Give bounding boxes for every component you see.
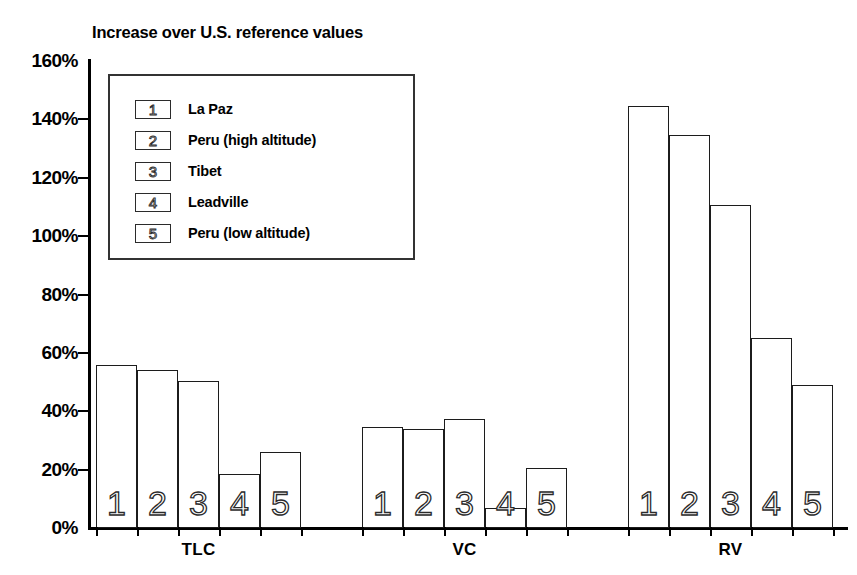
legend-item[interactable]: 4Leadville xyxy=(110,185,413,219)
x-axis-tick-mark xyxy=(526,527,528,536)
y-axis-line xyxy=(88,59,91,530)
bar[interactable] xyxy=(792,385,833,528)
y-axis-labels: 160%140%120%100%80%60%40%20%0% xyxy=(0,0,78,575)
x-axis-tick-mark xyxy=(751,527,753,536)
x-axis-tick-mark xyxy=(792,527,794,536)
x-axis-tick-mark xyxy=(137,527,139,536)
legend-key-swatch: 4 xyxy=(135,193,171,212)
x-axis-tick-mark xyxy=(403,527,405,536)
legend-item[interactable]: 3Tibet xyxy=(110,154,413,188)
x-axis-tick-mark xyxy=(178,527,180,536)
legend-key-swatch: 5 xyxy=(135,224,171,243)
x-axis-group-label: RV xyxy=(719,540,743,560)
chart-figure: Increase over U.S. reference values 160%… xyxy=(0,0,857,575)
bar[interactable] xyxy=(362,427,403,528)
bar[interactable] xyxy=(178,381,219,528)
bar[interactable] xyxy=(485,508,526,528)
x-axis-tick-mark xyxy=(362,527,364,536)
legend-item-label: La Paz xyxy=(188,101,233,117)
y-axis-tick-label: 100% xyxy=(2,225,78,247)
bar[interactable] xyxy=(751,338,792,528)
bar[interactable] xyxy=(96,365,137,528)
x-axis-tick-mark xyxy=(628,527,630,536)
y-axis-tick-label: 80% xyxy=(2,284,78,306)
y-axis-tick-label: 120% xyxy=(2,167,78,189)
y-axis-tick-label: 20% xyxy=(2,459,78,481)
bar[interactable] xyxy=(260,452,301,528)
x-axis-tick-mark xyxy=(260,527,262,536)
x-axis-group-label: VC xyxy=(452,540,476,560)
x-axis-tick-mark xyxy=(567,527,569,536)
legend-item-label: Leadville xyxy=(188,194,248,210)
bar[interactable] xyxy=(710,205,751,528)
x-axis-tick-mark xyxy=(444,527,446,536)
x-axis-tick-mark xyxy=(833,527,835,536)
bar[interactable] xyxy=(444,419,485,528)
y-axis-tick-label: 60% xyxy=(2,342,78,364)
legend-key-swatch: 2 xyxy=(135,131,171,150)
legend-item[interactable]: 2Peru (high altitude) xyxy=(110,123,413,157)
x-axis-tick-mark xyxy=(301,527,303,536)
legend-item[interactable]: 5Peru (low altitude) xyxy=(110,216,413,250)
x-axis-tick-mark xyxy=(96,527,98,536)
bar[interactable] xyxy=(526,468,567,528)
bar[interactable] xyxy=(137,370,178,528)
y-axis-tick-label: 40% xyxy=(2,400,78,422)
legend-item[interactable]: 1La Paz xyxy=(110,92,413,126)
bar[interactable] xyxy=(219,474,260,528)
x-axis-tick-mark xyxy=(710,527,712,536)
legend-item-label: Peru (low altitude) xyxy=(188,225,310,241)
legend-item-label: Peru (high altitude) xyxy=(188,132,316,148)
y-axis-tick-label: 0% xyxy=(2,517,78,539)
x-axis-tick-mark xyxy=(485,527,487,536)
y-axis-tick-label: 140% xyxy=(2,108,78,130)
bar[interactable] xyxy=(403,429,444,528)
legend-key-swatch: 1 xyxy=(135,100,171,119)
x-axis-tick-mark xyxy=(219,527,221,536)
chart-legend: 1La Paz2Peru (high altitude)3Tibet4Leadv… xyxy=(108,74,415,260)
x-axis-tick-mark xyxy=(669,527,671,536)
bar[interactable] xyxy=(628,106,669,528)
y-axis-tick-label: 160% xyxy=(2,50,78,72)
chart-title: Increase over U.S. reference values xyxy=(92,23,363,42)
legend-key-swatch: 3 xyxy=(135,162,171,181)
bar[interactable] xyxy=(669,135,710,528)
legend-item-label: Tibet xyxy=(188,163,221,179)
x-axis-group-label: TLC xyxy=(182,540,216,560)
